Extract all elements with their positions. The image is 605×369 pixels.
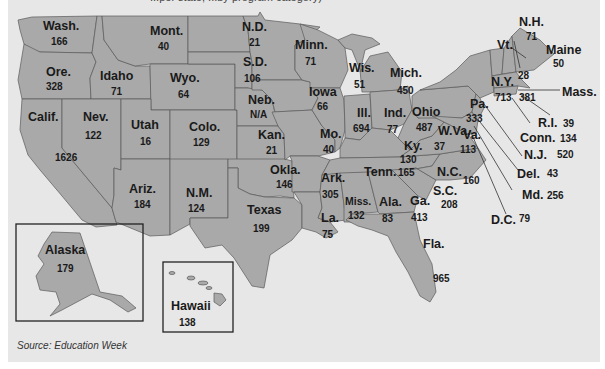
label-nm-value: 124: [188, 203, 205, 214]
state-wi[interactable]: [295, 24, 348, 88]
state-co[interactable]: [170, 110, 237, 162]
label-dc-name: D.C.: [491, 213, 516, 227]
label-wv-value: 37: [434, 141, 446, 152]
label-nj-name: N.J.: [524, 148, 547, 162]
label-ga-name: Ga.: [410, 194, 430, 208]
label-tx-value: 199: [253, 223, 270, 234]
label-in-name: Ind.: [384, 106, 406, 120]
label-wa-value: 166: [51, 36, 68, 47]
label-tx-name: Texas: [247, 203, 282, 217]
label-hi-name: Hawaii: [171, 299, 211, 313]
label-va-name: Va.: [463, 128, 481, 142]
label-ms-name: Miss.: [345, 195, 371, 207]
label-ny-name: N.Y.: [491, 75, 514, 89]
label-nv-value: 122: [85, 130, 102, 141]
label-nd-name: N.D.: [242, 20, 267, 34]
label-ok-value: 146: [276, 179, 293, 190]
label-id-name: Idaho: [100, 69, 134, 83]
label-or-name: Ore.: [46, 65, 71, 79]
label-dc-value: 79: [519, 213, 531, 224]
label-ks-value: 21: [266, 145, 278, 156]
label-la-value: 75: [322, 229, 334, 240]
label-ma-value: 381: [519, 92, 536, 103]
label-ri-value: 39: [563, 118, 575, 129]
label-ok-name: Okla.: [270, 163, 301, 177]
label-nc-value: 160: [463, 175, 480, 186]
label-me-value: 50: [553, 58, 565, 69]
label-co-value: 129: [193, 137, 210, 148]
state-nd[interactable]: [188, 16, 250, 52]
label-ak-value: 179: [57, 263, 74, 274]
label-ri-name: R.I.: [538, 116, 557, 130]
label-ct-name: Conn.: [520, 131, 555, 145]
label-fl-name: Fla.: [423, 237, 445, 251]
label-ut-value: 16: [140, 136, 152, 147]
label-sc-name: S.C.: [433, 184, 457, 198]
label-mt-name: Mont.: [150, 24, 183, 38]
label-vt-name: Vt.: [497, 38, 513, 52]
label-ct-value: 134: [560, 133, 577, 144]
label-nj-value: 520: [557, 149, 574, 160]
label-il-name: Ill.: [357, 106, 371, 120]
label-il-value: 694: [353, 123, 370, 134]
label-me-name: Maine: [546, 43, 581, 57]
label-ne-name: Neb.: [248, 93, 275, 107]
label-va-value: 113: [460, 144, 477, 155]
label-pa-name: Pa.: [470, 97, 489, 111]
label-pa-value: 333: [466, 113, 483, 124]
label-ia-value: 66: [317, 101, 329, 112]
label-ia-name: Iowa: [309, 85, 338, 99]
label-wa-name: Wash.: [43, 19, 79, 33]
us-state-map: Wash. 166 Mont. 40 N.D. 21 Minn. 71 Ore.…: [0, 0, 605, 369]
label-mo-name: Mo.: [320, 127, 342, 141]
label-id-value: 71: [111, 86, 123, 97]
label-ny-value: 713: [495, 92, 512, 103]
label-mi-value: 450: [397, 85, 414, 96]
label-oh-name: Ohio: [412, 105, 441, 119]
state-shapes: [18, 12, 554, 302]
label-sd-name: S.D.: [243, 55, 267, 69]
label-ks-name: Kan.: [258, 128, 285, 142]
label-al-value: 83: [382, 213, 394, 224]
label-mi-name: Mich.: [390, 66, 422, 80]
label-ky-name: Ky.: [404, 139, 423, 153]
state-fl[interactable]: [346, 212, 436, 302]
label-nh-value: 71: [526, 31, 538, 42]
label-ky-value: 130: [400, 154, 417, 165]
label-nd-value: 21: [249, 37, 261, 48]
label-mn-value: 71: [305, 56, 317, 67]
label-wi-name: Wis.: [349, 61, 375, 75]
label-ne-value: N/A: [250, 109, 267, 120]
label-md-value: 256: [547, 190, 564, 201]
label-ma-name: Mass.: [562, 85, 597, 99]
source-caption: Source: Education Week: [17, 340, 127, 351]
label-nh-name: N.H.: [519, 15, 544, 29]
label-nv-name: Nev.: [83, 110, 108, 124]
label-fl-value: 965: [433, 273, 450, 284]
label-mt-value: 40: [158, 41, 170, 52]
label-la-name: La.: [321, 211, 339, 225]
label-nc-name: N.C.: [437, 165, 462, 179]
label-mo-value: 40: [323, 144, 335, 155]
label-de-name: Del.: [517, 167, 540, 181]
label-oh-value: 487: [416, 122, 433, 133]
label-ca-value: 1626: [55, 152, 78, 163]
label-hi-value: 138: [179, 317, 196, 328]
label-ca-name: Calif.: [28, 110, 59, 124]
label-wi-value: 51: [354, 79, 366, 90]
label-mn-name: Minn.: [295, 38, 328, 52]
label-or-value: 328: [46, 81, 63, 92]
label-vt-value: 28: [518, 70, 530, 81]
label-az-value: 184: [134, 199, 151, 210]
label-ut-name: Utah: [131, 118, 159, 132]
label-tn-name: Tenn.: [364, 165, 396, 179]
label-wy-value: 64: [178, 89, 190, 100]
label-ar-name: Ark.: [321, 171, 345, 185]
label-ga-value: 413: [411, 212, 428, 223]
label-md-name: Md.: [522, 188, 544, 202]
label-al-name: Ala.: [379, 195, 402, 209]
label-de-value: 43: [547, 168, 559, 179]
label-sc-value: 208: [441, 199, 458, 210]
label-nm-name: N.M.: [186, 186, 212, 200]
label-az-name: Ariz.: [129, 182, 156, 196]
